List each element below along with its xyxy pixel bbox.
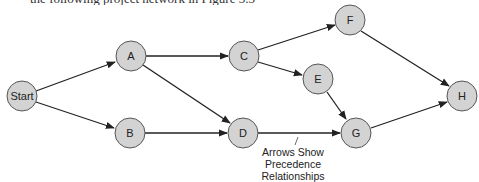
- node-label: H: [458, 90, 466, 102]
- edge-a-d: [143, 65, 230, 123]
- node-label: B: [126, 127, 133, 139]
- edge-c-e: [258, 62, 302, 75]
- edge-g-h: [371, 102, 447, 128]
- node-label: Start: [10, 90, 33, 102]
- node-b: B: [115, 118, 145, 148]
- node-h: H: [447, 81, 477, 111]
- node-a: A: [116, 41, 146, 71]
- annotation-line-2: Precedence: [265, 158, 321, 170]
- node-label: E: [314, 73, 321, 85]
- precedence-network-diagram: Start A B C D E F G H Arrows Show Preced…: [0, 0, 479, 182]
- node-label: A: [127, 50, 135, 62]
- node-label: G: [352, 127, 361, 139]
- edge-c-f: [258, 25, 335, 50]
- node-label: C: [240, 50, 248, 62]
- annotation-line-3: Relationships: [261, 170, 324, 182]
- node-e: E: [303, 64, 333, 94]
- node-g: G: [341, 118, 371, 148]
- edge-f-h: [361, 31, 449, 86]
- annotation-leader-line: [295, 137, 298, 145]
- node-label: F: [347, 14, 354, 26]
- edge-e-g: [327, 92, 346, 119]
- edge-start-b: [36, 102, 114, 128]
- annotation-line-1: Arrows Show: [262, 146, 324, 158]
- node-start: Start: [7, 81, 37, 111]
- node-label: D: [239, 127, 247, 139]
- precedence-annotation: Arrows Show Precedence Relationships: [261, 137, 324, 182]
- edge-start-a: [36, 62, 115, 91]
- node-f: F: [335, 5, 365, 35]
- node-d: D: [228, 118, 258, 148]
- node-c: C: [229, 41, 259, 71]
